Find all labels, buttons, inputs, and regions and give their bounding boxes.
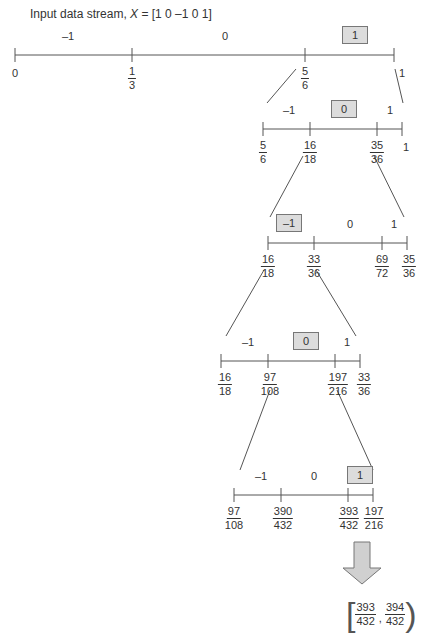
result-lower: 393432 (355, 601, 375, 628)
boundary-fraction: 56 (259, 139, 267, 166)
selected-symbol-box: –1 (276, 214, 302, 232)
symbol-label: 0 (347, 218, 353, 230)
boundary-fraction: 6972 (375, 253, 389, 280)
boundary-label: 1 (403, 141, 409, 153)
left-bracket: [ (346, 597, 355, 631)
boundary-fraction: 56 (301, 65, 309, 92)
boundary-label: 0 (12, 67, 18, 79)
boundary-fraction: 97108 (261, 371, 279, 398)
right-bracket: ) (405, 597, 416, 631)
boundary-fraction: 3336 (307, 253, 321, 280)
zoom-connector (226, 270, 264, 336)
symbol-label: 1 (344, 336, 350, 348)
symbol-label: –1 (255, 470, 267, 482)
symbol-label: –1 (283, 104, 295, 116)
result-upper: 394432 (385, 601, 405, 628)
zoom-connector (316, 270, 356, 336)
selected-symbol-box: 0 (293, 332, 319, 350)
boundary-fraction: 3536 (402, 253, 416, 280)
result-interval: [ 393432 , 394432 ) (346, 597, 417, 631)
boundary-fraction: 197216 (328, 371, 348, 398)
zoom-connector (337, 390, 373, 470)
boundary-fraction: 3336 (357, 371, 371, 398)
diagram-lines (0, 0, 427, 635)
boundary-fraction: 13 (128, 65, 136, 92)
symbol-label: 0 (222, 30, 228, 42)
boundary-fraction: 197216 (364, 505, 384, 532)
selected-symbol-box: 1 (342, 26, 368, 44)
symbol-label: 1 (391, 218, 397, 230)
zoom-connector (270, 156, 303, 217)
boundary-fraction: 97108 (225, 505, 243, 532)
boundary-fraction: 1618 (218, 371, 232, 398)
boundary-fraction: 390432 (273, 505, 293, 532)
symbol-label: 1 (387, 104, 393, 116)
diagram-title: Input data stream, X = [1 0 –1 0 1] (30, 7, 212, 21)
zoom-connector (267, 69, 296, 103)
symbol-label: 0 (311, 470, 317, 482)
symbol-label: –1 (62, 30, 74, 42)
selected-symbol-box: 1 (347, 466, 373, 484)
boundary-label: 1 (399, 67, 405, 79)
down-arrow-icon (343, 542, 381, 584)
zoom-connector (240, 390, 270, 470)
boundary-fraction: 393432 (339, 505, 359, 532)
boundary-fraction: 3536 (370, 139, 384, 166)
boundary-fraction: 1618 (261, 253, 275, 280)
selected-symbol-box: 0 (331, 100, 357, 118)
boundary-fraction: 1618 (303, 139, 317, 166)
symbol-label: –1 (242, 336, 254, 348)
